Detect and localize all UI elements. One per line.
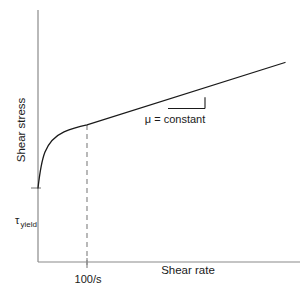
figure-container: Shear stress Shear rate 100/s μ = consta… bbox=[0, 0, 308, 291]
yield-subscript: yield bbox=[19, 220, 36, 229]
plot-canvas bbox=[0, 0, 308, 291]
x-axis-title: Shear rate bbox=[161, 265, 215, 277]
mu-constant-annotation: μ = constant bbox=[145, 114, 205, 125]
yield-stress-label: τyield bbox=[15, 215, 37, 229]
y-axis-title: Shear stress bbox=[16, 98, 28, 163]
flow-curve bbox=[38, 63, 285, 189]
x-tick-label-100s: 100/s bbox=[75, 274, 102, 285]
